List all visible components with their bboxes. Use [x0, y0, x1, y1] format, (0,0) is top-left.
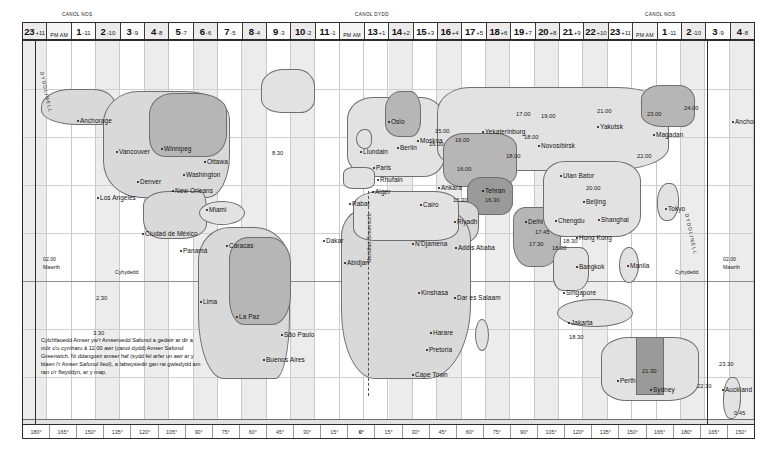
city-label: Cape Town [415, 371, 448, 378]
landmass-brazil-shade [229, 237, 291, 325]
timezone-hour: 2 [686, 26, 691, 37]
timezone-offset: -9 [718, 30, 723, 36]
timezone-cell-7[interactable]: 7-5 [218, 23, 242, 39]
timezone-cell-21[interactable]: 21+9 [560, 23, 584, 39]
city-label: Buenos Aires [266, 356, 305, 363]
timezone-offset: +11 [35, 30, 45, 36]
city-label: N'Djamena [415, 240, 447, 247]
timezone-cell-2[interactable]: 2-10 [682, 23, 706, 39]
timezone-cell-4[interactable]: 4-8 [731, 23, 754, 39]
landmass-iberia [343, 167, 375, 189]
timezone-offset: -10 [107, 30, 116, 36]
city-label: Chengdu [558, 217, 585, 224]
longitude-tick: 75° [484, 425, 511, 438]
ampm-label: PM AM [343, 32, 361, 38]
city-label: New Orleans [175, 187, 213, 194]
timezone-cell-23[interactable]: 23+11 [609, 23, 633, 39]
timezone-cell-3[interactable]: 3-9 [706, 23, 730, 39]
world-time-zone-map: CANOL NOS CANOL DYDD CANOL NOS 23+11PM A… [0, 0, 775, 455]
city-label: Sydney [653, 386, 675, 393]
timezone-offset: +5 [476, 30, 483, 36]
greenwich-meridian-label: Meridian Greenwich [366, 213, 372, 263]
timezone-cell-22[interactable]: 22+10 [584, 23, 608, 39]
timezone-cell-3[interactable]: 3-9 [121, 23, 145, 39]
city-label: Rhufain [380, 176, 403, 183]
date-line-right [707, 41, 708, 425]
timezone-hour: 20 [538, 26, 548, 37]
longitude-tick: 135° [104, 425, 131, 438]
equator-label-left: Cyhydedd [115, 269, 138, 275]
timezone-offset: +10 [597, 30, 607, 36]
landmass-caribbean [199, 201, 245, 225]
timezone-offset: +1 [379, 30, 386, 36]
timezone-hour: 9 [273, 26, 278, 37]
timezone-cell-19[interactable]: 19+7 [511, 23, 535, 39]
city-label: Addis Ababa [458, 244, 495, 251]
timezone-cell-5[interactable]: 5-7 [169, 23, 193, 39]
timezone-cell-9[interactable]: 9-3 [267, 23, 291, 39]
landmass-scandinavia-shade [385, 91, 421, 137]
map-canvas: DYDDLINELL DYDDLINELL Meridian Greenwich… [22, 40, 755, 425]
timezone-cell-1[interactable]: 1-11 [658, 23, 682, 39]
date-line-left [35, 41, 36, 425]
ampm-label: PM AM [636, 32, 654, 38]
landmass-japan [657, 183, 679, 221]
timezone-ampm-cell[interactable]: PM AM [47, 23, 71, 39]
timezone-ampm-cell[interactable]: PM AM [633, 23, 657, 39]
timezone-cell-20[interactable]: 20+8 [536, 23, 560, 39]
timezone-offset: +9 [574, 30, 581, 36]
timezone-cell-16[interactable]: 16+4 [438, 23, 462, 39]
timezone-cell-18[interactable]: 18+6 [487, 23, 511, 39]
time-value: 18.00 [552, 245, 567, 251]
city-label: La Paz [239, 313, 260, 320]
city-label: Vancouver [119, 148, 150, 155]
timezone-hour: 22 [585, 26, 595, 37]
timezone-cell-14[interactable]: 14+2 [389, 23, 413, 39]
landmass-madagascar [475, 319, 489, 351]
timezone-offset: -4 [255, 30, 260, 36]
timezone-cell-10[interactable]: 10-2 [291, 23, 315, 39]
timezone-header-strip: 23+11PM AM1-112-103-94-85-76-67-58-49-31… [22, 22, 755, 40]
city-label: Pretoria [429, 346, 452, 353]
longitude-tick: 60° [457, 425, 484, 438]
timezone-hour: 11 [320, 26, 330, 37]
city-label: Novosibirsk [541, 142, 575, 149]
city-label: Ankara [441, 184, 462, 191]
longitude-tick: 180° [23, 425, 50, 438]
timezone-cell-6[interactable]: 6-6 [194, 23, 218, 39]
time-value: 19.00 [541, 113, 556, 119]
city-label: Caracas [229, 242, 254, 249]
city-label: Winnipeg [164, 145, 191, 152]
longitude-tick: 105° [538, 425, 565, 438]
longitude-tick: 165° [647, 425, 674, 438]
timezone-hour: 23 [610, 26, 620, 37]
city-label: São Paulo [284, 331, 314, 338]
timezone-offset: -8 [157, 30, 162, 36]
timezone-cell-17[interactable]: 17+5 [462, 23, 486, 39]
timezone-cell-2[interactable]: 2-10 [96, 23, 120, 39]
timezone-cell-13[interactable]: 13+1 [365, 23, 389, 39]
timezone-cell-11[interactable]: 11-1 [316, 23, 340, 39]
city-label: Berlin [400, 144, 417, 151]
city-label: Harare [433, 329, 453, 336]
longitude-tick: 30° [294, 425, 321, 438]
longitude-tick: 165° [50, 425, 77, 438]
city-label: Anchorage [80, 117, 112, 124]
timezone-hour: 8 [249, 26, 254, 37]
time-value: 16.30 [485, 197, 500, 203]
timezone-cell-23[interactable]: 23+11 [23, 23, 47, 39]
time-value: 16.00 [429, 141, 444, 147]
timezone-cell-4[interactable]: 4-8 [145, 23, 169, 39]
timezone-cell-1[interactable]: 1-11 [72, 23, 96, 39]
timezone-ampm-cell[interactable]: PM AM [340, 23, 364, 39]
timezone-cell-8[interactable]: 8-4 [243, 23, 267, 39]
city-label: Tokyo [668, 205, 685, 212]
longitude-tick: 135° [592, 425, 619, 438]
city-label: Jakarta [571, 319, 593, 326]
time-value: 18.30 [569, 334, 584, 340]
midnight-right-caption: CANOL NOS [645, 12, 676, 17]
timezone-offset: +2 [403, 30, 410, 36]
day-name-right: Mawrth [723, 264, 740, 270]
timezone-hour: 3 [127, 26, 132, 37]
timezone-cell-15[interactable]: 15+3 [414, 23, 438, 39]
